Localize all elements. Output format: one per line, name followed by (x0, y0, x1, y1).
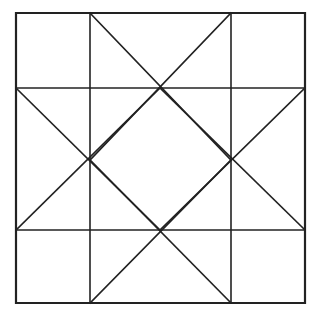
geometric-figure: Star Quilt Block Geometric Line Figure A… (0, 0, 318, 318)
figure-background (0, 0, 318, 318)
